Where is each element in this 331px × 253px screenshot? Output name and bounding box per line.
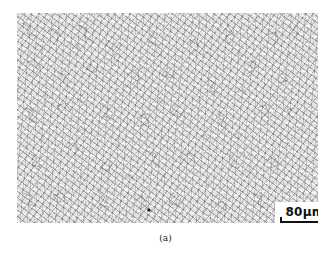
figure-caption: (a) bbox=[0, 233, 331, 243]
micrograph-image: 80μm bbox=[17, 13, 318, 223]
grain-boundary-texture bbox=[17, 13, 318, 223]
dark-particle bbox=[147, 208, 150, 211]
scale-bar-line bbox=[280, 221, 318, 223]
scale-bar: 80μm bbox=[275, 202, 318, 223]
